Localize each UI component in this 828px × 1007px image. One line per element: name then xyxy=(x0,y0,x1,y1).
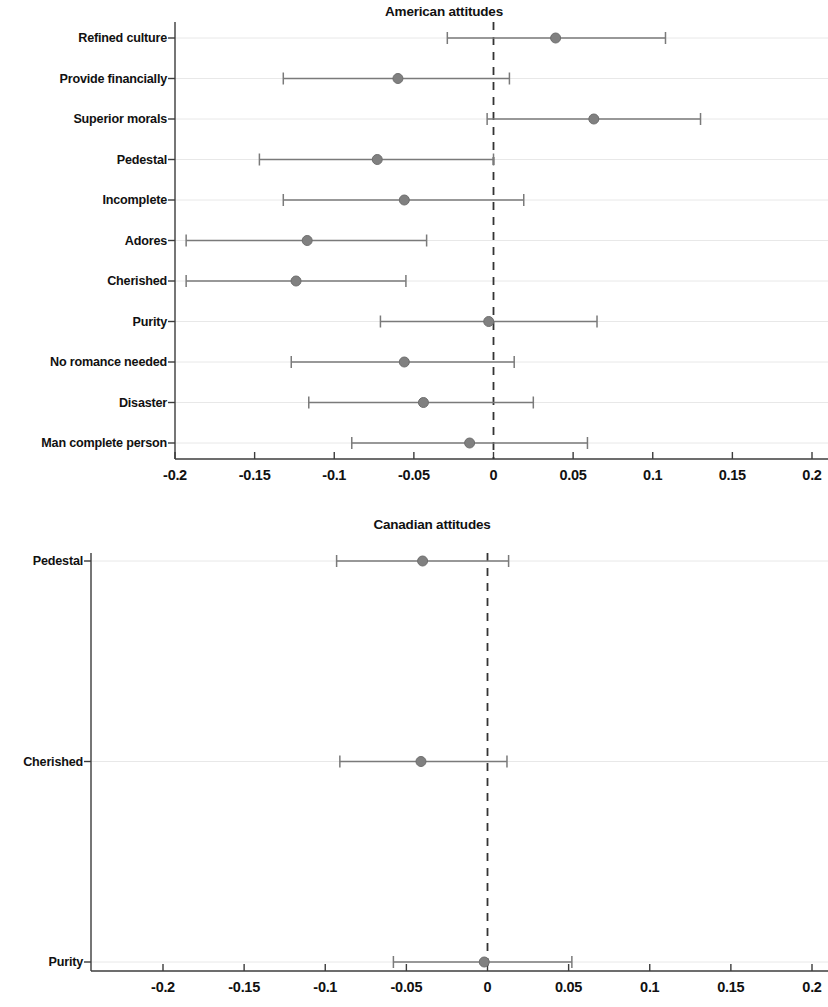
x-axis-tick-label: 0.05 xyxy=(560,467,587,483)
x-axis-tick-label: 0.2 xyxy=(802,467,821,483)
x-axis-tick-label: 0.15 xyxy=(719,467,746,483)
x-axis-tick-label: -0.2 xyxy=(151,979,175,995)
x-axis-tick-label: 0.1 xyxy=(643,467,662,483)
x-axis-tick-label: 0 xyxy=(484,979,492,995)
x-axis-tick-label: 0.05 xyxy=(555,979,582,995)
x-axis-tick-labels-american: -0.2-0.15-0.1-0.0500.050.10.150.2 xyxy=(0,0,828,500)
x-axis-tick-label: 0 xyxy=(490,467,498,483)
forest-plot-figure: American attitudes Refined cultureProvid… xyxy=(0,0,828,1007)
chart-panel-american: American attitudes Refined cultureProvid… xyxy=(0,0,828,500)
x-axis-tick-label: -0.2 xyxy=(163,467,187,483)
x-axis-tick-labels-canadian: -0.2-0.15-0.1-0.0500.050.10.150.2 xyxy=(0,505,828,1007)
x-axis-tick-label: -0.05 xyxy=(398,467,430,483)
x-axis-tick-label: 0.15 xyxy=(717,979,744,995)
chart-panel-canadian: Canadian attitudes PedestalCherishedPuri… xyxy=(0,505,828,1007)
x-axis-tick-label: -0.1 xyxy=(313,979,337,995)
x-axis-tick-label: -0.05 xyxy=(391,979,423,995)
x-axis-tick-label: -0.15 xyxy=(239,467,271,483)
x-axis-tick-label: 0.1 xyxy=(640,979,659,995)
x-axis-tick-label: -0.15 xyxy=(228,979,260,995)
x-axis-tick-label: -0.1 xyxy=(322,467,346,483)
x-axis-tick-label: 0.2 xyxy=(802,979,821,995)
